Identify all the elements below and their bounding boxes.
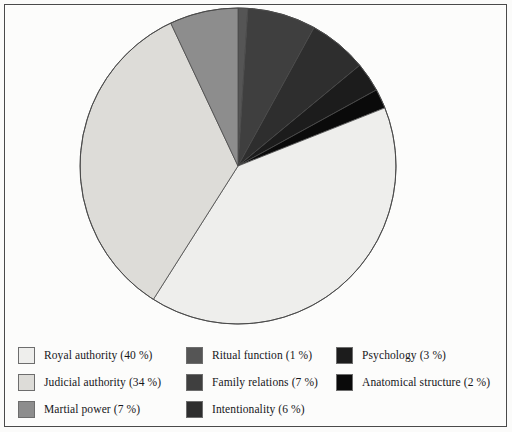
legend-label-anatomical-structure: Anatomical structure (2 %) (362, 377, 490, 389)
pie-chart-svg (0, 0, 512, 336)
legend-item-family-relations[interactable]: Family relations (7 %) (186, 369, 336, 396)
legend-label-family-relations: Family relations (7 %) (212, 377, 318, 389)
legend-label-ritual-function: Ritual function (1 %) (212, 350, 312, 362)
legend-label-royal-authority: Royal authority (40 %) (44, 350, 153, 362)
chart-page: Royal authority (40 %)Ritual function (1… (0, 0, 512, 432)
legend-label-judicial-authority: Judicial authority (34 %) (44, 377, 161, 389)
legend-item-anatomical-structure[interactable]: Anatomical structure (2 %) (336, 369, 496, 396)
legend-swatch-ritual-function (186, 347, 203, 364)
legend-item-empty (336, 396, 496, 423)
legend-item-psychology[interactable]: Psychology (3 %) (336, 342, 496, 369)
legend-item-intentionality[interactable]: Intentionality (6 %) (186, 396, 336, 423)
legend-item-martial-power[interactable]: Martial power (7 %) (18, 396, 186, 423)
pie-chart (0, 0, 512, 336)
legend-swatch-martial-power (18, 401, 35, 418)
legend-label-psychology: Psychology (3 %) (362, 350, 446, 362)
legend-swatch-royal-authority (18, 347, 35, 364)
legend-label-martial-power: Martial power (7 %) (44, 404, 140, 416)
legend-swatch-anatomical-structure (336, 374, 353, 391)
legend-swatch-intentionality (186, 401, 203, 418)
chart-legend: Royal authority (40 %)Ritual function (1… (18, 342, 496, 424)
legend-label-intentionality: Intentionality (6 %) (212, 404, 305, 416)
legend-swatch-family-relations (186, 374, 203, 391)
legend-item-royal-authority[interactable]: Royal authority (40 %) (18, 342, 186, 369)
legend-swatch-judicial-authority (18, 374, 35, 391)
legend-swatch-psychology (336, 347, 353, 364)
legend-item-ritual-function[interactable]: Ritual function (1 %) (186, 342, 336, 369)
pie-slice-group (80, 8, 396, 324)
legend-item-judicial-authority[interactable]: Judicial authority (34 %) (18, 369, 186, 396)
